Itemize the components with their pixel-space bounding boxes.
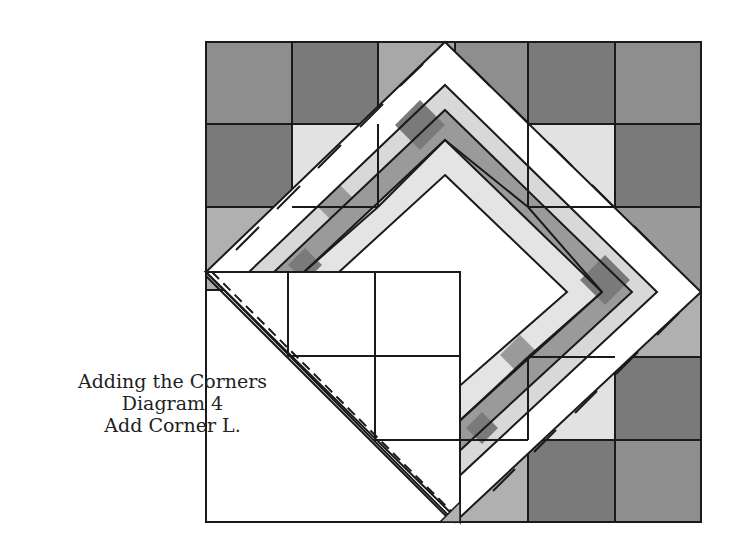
caption-title: Adding the Corners	[0, 370, 345, 392]
diagram-caption: Adding the Corners Diagram 4 Add Corner …	[0, 370, 345, 436]
caption-diagram-number: Diagram 4	[0, 392, 345, 414]
caption-instruction: Add Corner L.	[0, 414, 345, 436]
quilt-diagram	[0, 0, 746, 553]
